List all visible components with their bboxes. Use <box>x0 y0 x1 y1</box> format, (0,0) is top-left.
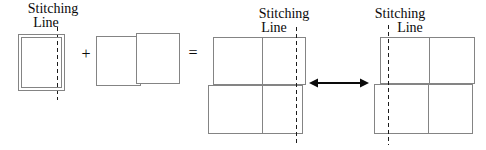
stitching-line-label-result-left-line1: Stitching <box>256 7 312 21</box>
plus-operator: + <box>78 45 94 63</box>
equals-operator: = <box>185 44 201 62</box>
overlap-image-right <box>136 33 180 84</box>
double-headed-arrow-icon <box>308 76 370 90</box>
result-left-bottom-row <box>208 85 303 134</box>
result-right-bottom-divider <box>428 85 429 133</box>
stitching-diagram: Stitching Line + = Stitching Line Stitch… <box>0 0 486 150</box>
result-left-top-divider <box>262 38 263 84</box>
result-left-top-row <box>213 37 306 85</box>
overlap-image-left <box>96 36 141 86</box>
stitching-line-dashed-result-right <box>388 25 389 145</box>
stitching-line-label-input-line1: Stitching <box>26 2 80 16</box>
stitching-line-dashed-result-left <box>296 27 297 143</box>
result-right-top-divider <box>429 38 430 83</box>
stitching-line-label-result-left-line2: Line <box>253 21 295 35</box>
stitching-line-label-result-right-line2: Line <box>389 21 431 35</box>
stitching-line-label-input-line2: Line <box>26 16 66 30</box>
stitching-line-label-result-right-line1: Stitching <box>372 7 428 21</box>
result-right-top-row <box>380 37 475 84</box>
result-left-bottom-divider <box>262 86 263 133</box>
input-image-frame-outer <box>18 34 65 91</box>
input-image-frame-inner <box>21 37 62 88</box>
